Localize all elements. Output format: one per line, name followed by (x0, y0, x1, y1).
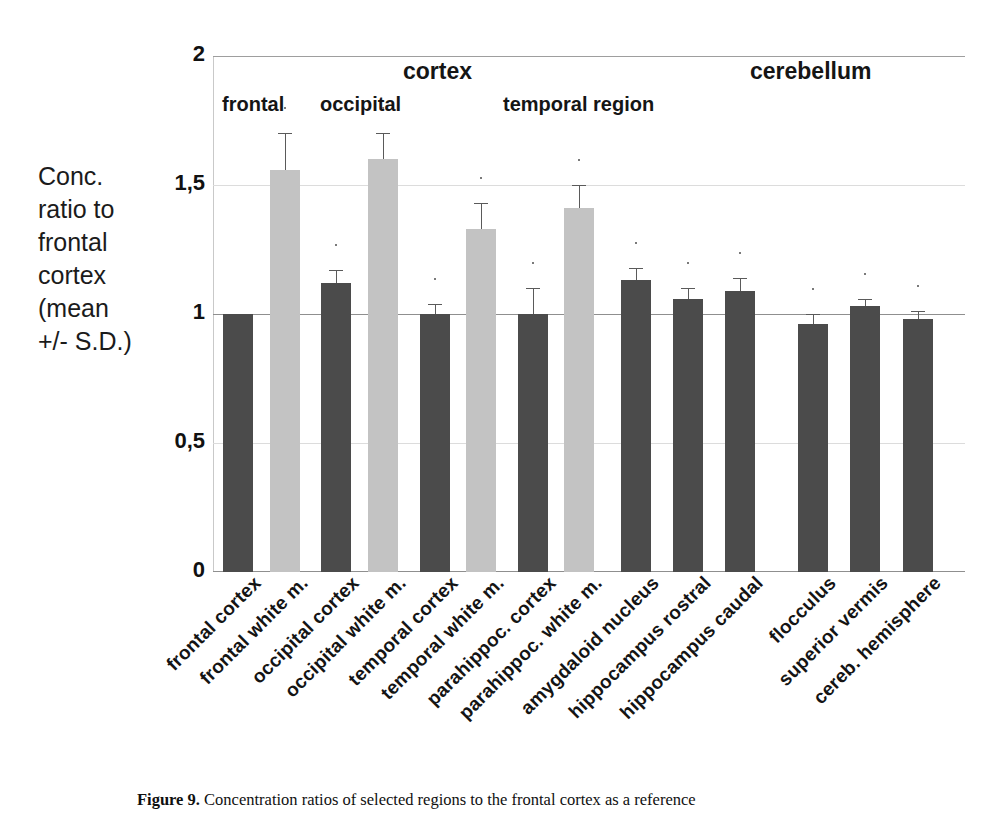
error-bar-tick-mark (284, 107, 286, 109)
error-bar (688, 288, 689, 298)
error-bar (636, 268, 637, 281)
error-bar (579, 185, 580, 208)
y-tick-label: 0,5 (145, 428, 205, 454)
y-axis-ticks: 21,510,50 (143, 56, 205, 572)
error-bar (865, 299, 866, 307)
bar-group[interactable] (903, 56, 933, 572)
error-bar-cap (278, 133, 292, 134)
y-tick-label: 2 (145, 41, 205, 67)
error-bar-cap (526, 288, 540, 289)
error-bar-tick-mark (917, 285, 919, 287)
figure-container: Conc. ratio to frontal cortex (mean +/- … (0, 0, 997, 817)
error-bar-tick-mark (864, 273, 866, 275)
bar[interactable] (223, 314, 253, 572)
error-bar-cap (474, 203, 488, 204)
error-bar (740, 278, 741, 291)
y-tick-label: 0 (145, 557, 205, 583)
error-bar-tick-mark (335, 244, 337, 246)
error-bar (285, 133, 286, 169)
error-bar-tick-mark (532, 262, 534, 264)
error-bar-tick-mark (739, 252, 741, 254)
x-axis-labels: frontal cortexfrontal white m.occipital … (213, 572, 973, 762)
error-bar-cap (681, 288, 695, 289)
error-bar-cap (733, 278, 747, 279)
error-bar (813, 314, 814, 324)
figure-caption-label: Figure 9. (137, 790, 200, 809)
error-bar (435, 304, 436, 314)
error-bar-tick-mark (382, 107, 384, 109)
error-bar (481, 203, 482, 229)
error-bar-cap (376, 133, 390, 134)
error-bar (533, 288, 534, 314)
error-bar (336, 270, 337, 283)
error-bar-tick-mark (434, 278, 436, 280)
error-bar-tick-mark (578, 159, 580, 161)
bar-group[interactable] (270, 56, 300, 572)
y-tick-label: 1,5 (145, 170, 205, 196)
error-bar-cap (428, 304, 442, 305)
bar[interactable] (270, 170, 300, 572)
error-bar-cap (806, 314, 820, 315)
bar-group[interactable] (223, 56, 253, 572)
error-bar-cap (911, 311, 925, 312)
error-bar-tick-mark (480, 177, 482, 179)
error-bar-cap (572, 185, 586, 186)
error-bar-tick-mark (635, 242, 637, 244)
error-bar-cap (629, 268, 643, 269)
error-bar (383, 133, 384, 159)
figure-caption-text: Concentration ratios of selected regions… (204, 790, 696, 809)
figure-caption: Figure 9. Concentration ratios of select… (137, 790, 967, 810)
error-bar-tick-mark (687, 262, 689, 264)
error-bar (918, 311, 919, 319)
error-bar-tick-mark (812, 288, 814, 290)
error-bar-cap (329, 270, 343, 271)
y-tick-label: 1 (145, 299, 205, 325)
error-bar-cap (858, 299, 872, 300)
